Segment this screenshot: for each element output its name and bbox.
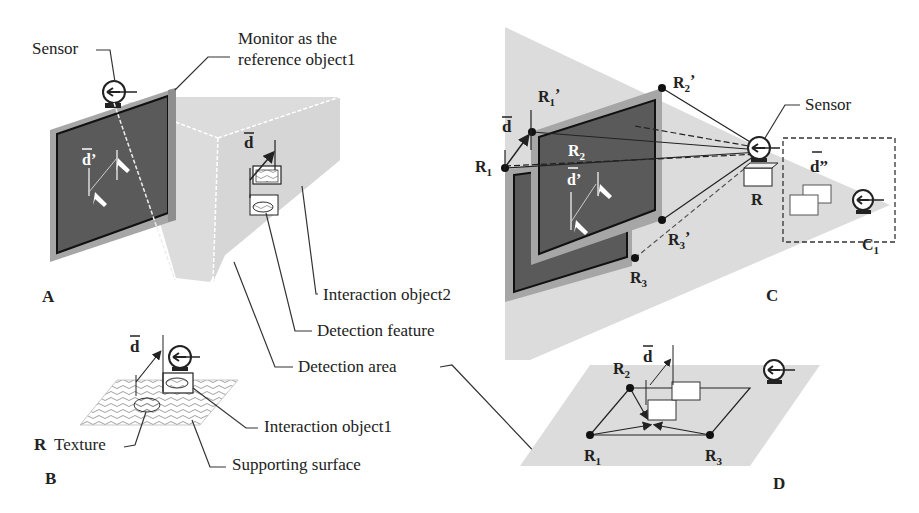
callout-texture: Texture bbox=[54, 435, 106, 454]
panel-d-label: D bbox=[773, 474, 785, 493]
interaction-object2 bbox=[253, 166, 281, 184]
diagram-canvas: d’ d A Sensor Monitor as the reference o… bbox=[0, 0, 919, 513]
detection-feature-object bbox=[250, 195, 278, 215]
vector-d-label: d bbox=[643, 347, 653, 366]
callout-sensor-c: Sensor bbox=[805, 95, 852, 114]
label-r2-prime: R2’ bbox=[673, 72, 695, 94]
panel-c-label: C bbox=[766, 286, 778, 305]
panel-c: R2 d’ d R1 R1’ R2’ R3’ R3 bbox=[475, 27, 895, 360]
monitor-reference-object1 bbox=[50, 88, 176, 262]
label-c1: C1 bbox=[862, 236, 879, 256]
texture-feature bbox=[134, 398, 160, 412]
panel-b-label: B bbox=[45, 469, 56, 488]
callout-monitor-line2: reference object1 bbox=[238, 50, 356, 69]
vector-d-label: d bbox=[244, 133, 254, 152]
vector-d-prime-label: d’ bbox=[82, 151, 96, 168]
panel-a-label: A bbox=[42, 287, 55, 306]
callout-supporting-surface: Supporting surface bbox=[232, 455, 361, 474]
point-r1-prime bbox=[528, 128, 536, 136]
callout-monitor-line1: Monitor as the bbox=[238, 29, 337, 48]
callout-interaction-object1: Interaction object1 bbox=[264, 417, 392, 436]
label-r1: R1 bbox=[475, 158, 492, 178]
point-r2-prime bbox=[658, 84, 666, 92]
label-r: R bbox=[751, 191, 763, 208]
panel-a: d’ d A bbox=[42, 81, 340, 306]
point-r1 bbox=[586, 431, 594, 439]
callout-interaction-object2: Interaction object2 bbox=[323, 285, 451, 304]
point-r3 bbox=[631, 254, 639, 262]
point-r3-prime bbox=[658, 216, 666, 224]
interaction-object1 bbox=[163, 373, 193, 393]
sensor-icon bbox=[169, 346, 200, 371]
point-r2 bbox=[626, 384, 634, 392]
callout-detection-feature: Detection feature bbox=[317, 321, 435, 340]
point-r3 bbox=[706, 431, 714, 439]
callout-sensor-a: Sensor bbox=[32, 39, 79, 58]
vector-d-prime-label: d’ bbox=[567, 171, 581, 188]
panel-d: d R2 R1 R3 D bbox=[520, 345, 820, 493]
vector-d-label: d bbox=[130, 337, 140, 356]
vector-d-label: d bbox=[502, 117, 512, 136]
vector-d-double-prime-label: d” bbox=[810, 157, 828, 176]
callout-detection-area: Detection area bbox=[298, 357, 397, 376]
texture-r-label: R bbox=[34, 435, 47, 454]
